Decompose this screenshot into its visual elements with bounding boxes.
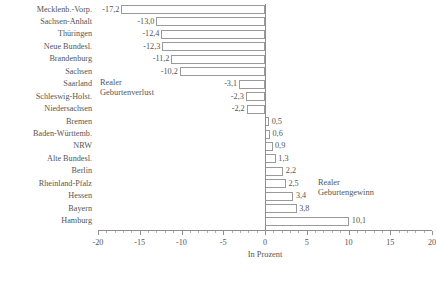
x-axis-minor-tick — [357, 231, 358, 233]
x-axis-minor-tick — [115, 231, 116, 233]
bar-value-label: -12,3 — [0, 42, 160, 51]
x-axis-minor-tick — [215, 231, 216, 233]
x-axis-tick — [390, 231, 391, 235]
x-axis-tick-label: 5 — [305, 238, 309, 247]
bar — [265, 167, 283, 176]
bar — [265, 192, 293, 201]
bar — [156, 17, 265, 26]
bar-value-label: 1,3 — [278, 154, 288, 163]
x-axis-minor-tick — [248, 231, 249, 233]
bar — [246, 92, 265, 101]
x-axis-minor-tick — [415, 231, 416, 233]
bar-value-label: -2,2 — [0, 104, 245, 113]
bar-value-label: 3,4 — [296, 191, 306, 200]
x-axis-tick-label: -20 — [93, 238, 104, 247]
x-axis-minor-tick — [232, 231, 233, 233]
bar — [265, 217, 349, 226]
x-axis-minor-tick — [282, 231, 283, 233]
bar — [171, 55, 265, 64]
x-axis-minor-tick — [382, 231, 383, 233]
x-axis-minor-tick — [257, 231, 258, 233]
bar — [180, 67, 265, 76]
x-axis-tick-label: 15 — [386, 238, 394, 247]
x-axis-tick — [432, 231, 433, 235]
bar-value-label: -13,0 — [0, 17, 154, 26]
bar-value-label: -11,2 — [0, 54, 169, 63]
bar-value-label: 0,9 — [275, 141, 285, 150]
bar — [265, 204, 297, 213]
annotation-geburtenverlust: Realer Geburtenverlust — [100, 78, 154, 98]
bar-value-label: 0,5 — [272, 117, 282, 126]
bar-value-label: 2,2 — [286, 166, 296, 175]
bar-value-label: 3,8 — [299, 204, 309, 213]
x-axis-tick-label: 0 — [263, 238, 267, 247]
x-axis-title: In Prozent — [248, 250, 283, 259]
x-axis-tick-label: -15 — [134, 238, 145, 247]
x-axis-tick — [140, 231, 141, 235]
x-axis-minor-tick — [290, 231, 291, 233]
x-axis-tick — [307, 231, 308, 235]
bar — [247, 105, 265, 114]
x-axis-minor-tick — [240, 231, 241, 233]
x-axis-minor-tick — [198, 231, 199, 233]
bar — [265, 142, 273, 151]
x-axis-minor-tick — [332, 231, 333, 233]
x-axis-minor-tick — [173, 231, 174, 233]
annotation-gain-line1: Realer — [318, 178, 374, 188]
x-axis-minor-tick — [123, 231, 124, 233]
x-axis-minor-tick — [207, 231, 208, 233]
bar — [121, 5, 265, 14]
x-axis-minor-tick — [273, 231, 274, 233]
x-axis-minor-tick — [298, 231, 299, 233]
x-axis-minor-tick — [365, 231, 366, 233]
bar — [265, 179, 286, 188]
x-axis-minor-tick — [340, 231, 341, 233]
zero-baseline — [265, 4, 266, 230]
bar-value-label: 10,1 — [352, 216, 366, 225]
annotation-loss-line1: Realer — [100, 78, 154, 88]
x-axis-tick-label: 10 — [344, 238, 352, 247]
x-axis-tick — [349, 231, 350, 235]
x-axis-minor-tick — [148, 231, 149, 233]
x-axis-tick-label: -5 — [220, 238, 227, 247]
bar — [162, 42, 265, 51]
x-axis-tick-label: -10 — [176, 238, 187, 247]
x-axis-minor-tick — [131, 231, 132, 233]
bar — [239, 80, 265, 89]
x-axis-tick — [223, 231, 224, 235]
x-axis-minor-tick — [190, 231, 191, 233]
x-axis-minor-tick — [323, 231, 324, 233]
x-axis-minor-tick — [315, 231, 316, 233]
bar-value-label: -17,2 — [0, 5, 119, 14]
x-axis-minor-tick — [165, 231, 166, 233]
bar-value-label: -10,2 — [0, 67, 178, 76]
x-axis-minor-tick — [156, 231, 157, 233]
annotation-gain-line2: Geburtengewinn — [318, 188, 374, 198]
bar-value-label: 2,5 — [288, 179, 298, 188]
x-axis-tick — [265, 231, 266, 235]
x-axis-tick — [182, 231, 183, 235]
x-axis-minor-tick — [399, 231, 400, 233]
bar-value-label: -12,4 — [0, 29, 159, 38]
x-axis-minor-tick — [424, 231, 425, 233]
bar — [161, 30, 265, 39]
annotation-geburtengewinn: Realer Geburtengewinn — [318, 178, 374, 198]
x-axis-minor-tick — [374, 231, 375, 233]
plot-area: -17,2-13,0-12,4-12,3-11,2-10,2-3,1-2,3-2… — [0, 0, 435, 250]
x-axis-tick — [98, 231, 99, 235]
annotation-loss-line2: Geburtenverlust — [100, 88, 154, 98]
x-axis-tick-label: 20 — [428, 238, 436, 247]
bar — [265, 154, 276, 163]
x-axis-minor-tick — [106, 231, 107, 233]
bar-value-label: 0,6 — [273, 129, 283, 138]
x-axis-minor-tick — [407, 231, 408, 233]
